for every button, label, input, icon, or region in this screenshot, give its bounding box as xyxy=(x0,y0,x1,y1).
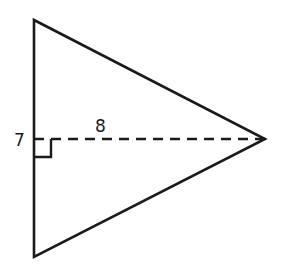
triangle-diagram: 7 8 xyxy=(0,0,293,278)
height-length-label: 8 xyxy=(95,116,106,136)
base-length-label: 7 xyxy=(14,130,25,150)
right-angle-marker xyxy=(34,139,51,157)
